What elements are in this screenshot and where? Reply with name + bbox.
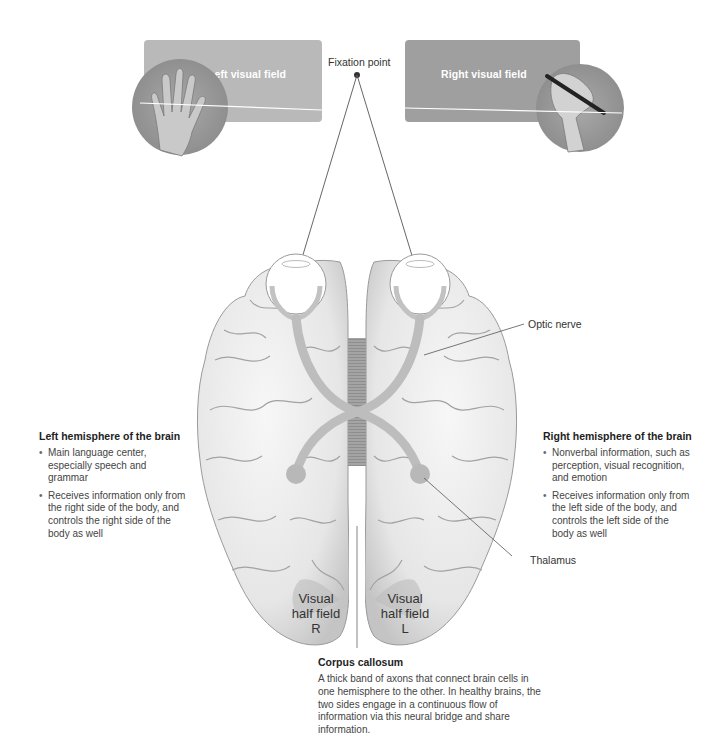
left-hemisphere-bullets: Main language center, especially speech … <box>39 447 189 540</box>
half-field-line: half field <box>370 606 440 621</box>
left-hemisphere-title: Left hemisphere of the brain <box>39 430 189 442</box>
corpus-callosum-title: Corpus callosum <box>318 656 544 668</box>
fixation-point-label: Fixation point <box>328 56 390 68</box>
half-field-line: half field <box>281 606 351 621</box>
half-field-line: Visual <box>281 591 351 606</box>
half-field-line: L <box>370 621 440 636</box>
right-hemisphere-title: Right hemisphere of the brain <box>543 430 693 442</box>
right-hemisphere-shape <box>365 260 517 645</box>
corpus-callosum-description: A thick band of axons that connect brain… <box>318 673 544 737</box>
right-hemisphere-bullet: Receives information only from the left … <box>543 490 693 540</box>
half-field-line: Visual <box>370 591 440 606</box>
left-hemisphere-bullet: Receives information only from the right… <box>39 490 189 540</box>
optic-nerve-label: Optic nerve <box>528 318 582 330</box>
left-hemisphere-bullet: Main language center, especially speech … <box>39 447 189 485</box>
left-thalamus-node <box>286 464 306 484</box>
right-hemisphere-bullet: Nonverbal information, such as perceptio… <box>543 447 693 485</box>
left-hemisphere-shape <box>197 260 349 645</box>
left-hemisphere-info: Left hemisphere of the brain Main langua… <box>39 430 189 545</box>
visual-half-field-r-label: Visual half field R <box>281 591 351 636</box>
visual-half-field-l-label: Visual half field L <box>370 591 440 636</box>
corpus-callosum-band <box>348 338 366 466</box>
right-hemisphere-info: Right hemisphere of the brain Nonverbal … <box>543 430 693 545</box>
half-field-line: R <box>281 621 351 636</box>
left-hand-circle-icon <box>132 59 228 156</box>
corpus-callosum-info: Corpus callosum A thick band of axons th… <box>318 656 544 737</box>
right-hand-circle-icon <box>536 64 624 152</box>
right-hemisphere-bullets: Nonverbal information, such as perceptio… <box>543 447 693 540</box>
thalamus-label: Thalamus <box>530 554 576 566</box>
